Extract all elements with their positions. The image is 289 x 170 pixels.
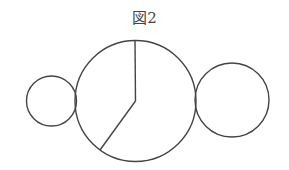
left-small-circle xyxy=(27,76,77,126)
right-medium-circle xyxy=(195,63,269,137)
diagonal-radius xyxy=(100,101,136,150)
vertical-radius xyxy=(135,41,136,102)
figure-canvas: 図2 xyxy=(0,0,289,170)
gear-diagram xyxy=(0,0,289,170)
